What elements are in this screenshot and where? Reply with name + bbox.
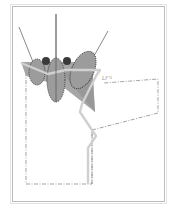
diagram-label: Lf⁻¹ — [102, 74, 112, 81]
right-sphere — [63, 57, 71, 65]
diagram-canvas — [0, 0, 176, 208]
left-sphere — [42, 57, 50, 65]
